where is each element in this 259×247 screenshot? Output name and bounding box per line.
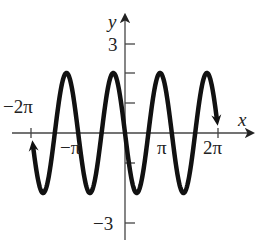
chart-svg: y x 3 −3 −2π −π π 2π [0,0,259,247]
x-tick-label-negpi: −π [60,137,81,158]
y-tick-label-neg3: −3 [93,213,113,234]
x-tick-label-2pi: 2π [203,137,223,158]
x-axis-label: x [237,109,247,130]
chart: y x 3 −3 −2π −π π 2π [0,0,259,247]
x-tick-label-pi: π [157,137,167,158]
y-axis-label: y [106,11,117,32]
x-tick-label-neg2pi: −2π [3,96,33,117]
y-tick-label-3: 3 [108,34,118,55]
